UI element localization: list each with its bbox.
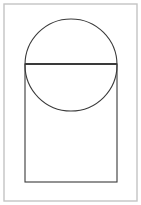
figure-container: [0, 0, 141, 205]
geometry-diagram: [0, 0, 141, 205]
